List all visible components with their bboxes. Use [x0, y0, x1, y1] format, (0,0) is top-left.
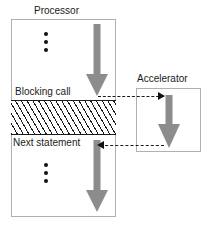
arrow-head	[86, 190, 108, 212]
processor-execution-arrow-bottom	[84, 140, 110, 212]
arrow-head	[86, 74, 108, 96]
connector-processor-to-accelerator	[98, 96, 164, 97]
ellipsis-dot	[44, 48, 48, 52]
ellipsis-dot	[44, 179, 48, 183]
processor-ellipsis-bottom	[44, 163, 48, 183]
arrow-shaft	[94, 24, 101, 76]
diagram-canvas: Processor Blocking call Next statement A…	[0, 0, 209, 227]
ellipsis-dot	[44, 40, 48, 44]
arrow-shaft	[166, 95, 173, 126]
processor-title: Processor	[34, 5, 79, 17]
ellipsis-dot	[44, 171, 48, 175]
ellipsis-dot	[44, 32, 48, 36]
processor-execution-arrow-top	[84, 24, 110, 96]
connector-accelerator-to-processor-arrowhead-icon	[97, 141, 104, 149]
accelerator-execution-arrow	[156, 95, 182, 148]
blocking-call-label: Blocking call	[15, 86, 71, 98]
processor-ellipsis-top	[44, 32, 48, 52]
ellipsis-dot	[44, 163, 48, 167]
blocked-region-hatched	[11, 100, 116, 135]
connector-processor-to-accelerator-arrowhead-icon	[158, 92, 165, 100]
accelerator-title: Accelerator	[137, 73, 188, 85]
connector-accelerator-to-processor	[100, 145, 164, 146]
next-statement-label: Next statement	[13, 137, 80, 149]
